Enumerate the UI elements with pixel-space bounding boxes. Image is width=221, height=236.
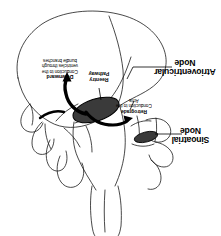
septum-line — [109, 16, 123, 106]
vena-cava-branch-3 — [148, 160, 161, 189]
atrial-body-right — [115, 107, 125, 186]
pulmonary-branch-1 — [32, 122, 54, 154]
label-retrograde-conduction: Retrograde Conduction to the Atria — [116, 97, 152, 114]
aorta-stub-inner — [30, 104, 33, 125]
inferior-vessel-left — [91, 186, 96, 236]
label-atrioventricular-node: Atrioventricular Node — [152, 57, 218, 76]
conduction-diagram: Atrioventricular Node Sinoatrial Node Do… — [0, 0, 221, 236]
heart-illustration — [0, 0, 221, 236]
inferior-vessel-right — [118, 186, 121, 236]
pulmonary-branch-3 — [57, 156, 84, 187]
vena-cava-branch-2 — [149, 142, 173, 167]
label-downward-emphasis: Downward — [47, 74, 74, 80]
label-retrograde-emphasis: Retrograde — [121, 109, 147, 115]
label-downward-rest: Conduction to the ventricles through bun… — [42, 57, 78, 73]
coronary-contour — [64, 128, 80, 147]
inferior-vessel-mid — [104, 190, 105, 232]
conduction-bundle-arc — [40, 111, 64, 118]
atrial-body-left — [73, 122, 96, 190]
coronary-contour-2 — [86, 126, 92, 152]
leader-line-av-node-hook — [127, 67, 133, 79]
label-reentry-pathway: Reentry Pathway — [82, 71, 116, 83]
right-atrium-contour — [131, 121, 151, 126]
right-atrium-contour-2 — [132, 144, 154, 146]
label-downward-conduction: Downward Conduction to the ventricles th… — [36, 57, 84, 80]
sinoatrial-node — [133, 129, 159, 145]
pulmonary-branch-2 — [46, 140, 67, 171]
heart-outline-group — [17, 11, 173, 236]
label-retrograde-rest: Conduction to the Atria — [116, 97, 152, 107]
label-sinoatrial-node: Sinoatrial Node — [163, 125, 218, 144]
